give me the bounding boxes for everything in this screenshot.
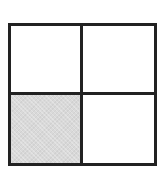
- cell-bottom-left-shaded: [11, 95, 83, 163]
- cell-top-right: [83, 26, 154, 95]
- two-by-two-grid: [8, 23, 157, 166]
- cell-top-left: [11, 26, 83, 95]
- cell-bottom-right: [83, 95, 154, 163]
